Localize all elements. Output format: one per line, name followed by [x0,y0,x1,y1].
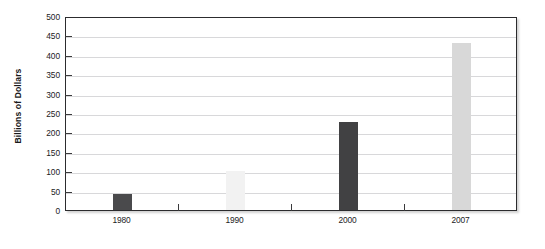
y-axis-title: Billions of Dollars [8,0,28,211]
y-tick-label: 50 [26,187,60,197]
y-tick-mark [65,133,72,134]
y-tick-label: 0 [26,206,60,216]
x-tick-label: 2007 [431,215,491,225]
x-tick-mark [404,204,405,211]
y-tick-label: 500 [26,12,60,22]
y-tick-label: 350 [26,70,60,80]
y-tick-label: 450 [26,31,60,41]
y-axis-tick-marks [65,17,75,211]
plot-area [65,17,517,211]
y-tick-label: 150 [26,148,60,158]
x-axis-tick-labels: 1980199020002007 [65,215,517,235]
bar-series [66,18,516,210]
y-tick-label: 100 [26,167,60,177]
y-tick-mark [65,56,72,57]
y-tick-mark [65,172,72,173]
bar [339,122,358,210]
y-tick-mark [65,95,72,96]
x-axis-tick-marks [65,204,517,212]
y-tick-mark [65,192,72,193]
x-tick-mark [178,204,179,211]
y-tick-label: 200 [26,128,60,138]
y-axis-tick-labels: 050100150200250300350400450500 [26,0,60,249]
x-tick-mark [291,204,292,211]
x-tick-label: 2000 [318,215,378,225]
y-tick-label: 250 [26,109,60,119]
y-tick-mark [65,36,72,37]
y-tick-mark [65,75,72,76]
bar [452,43,471,210]
x-tick-label: 1990 [205,215,265,225]
y-axis-title-label: Billions of Dollars [13,68,23,143]
bar-chart-figure: Billions of Dollars 05010015020025030035… [0,0,545,249]
y-tick-mark [65,153,72,154]
y-tick-label: 300 [26,90,60,100]
y-tick-label: 400 [26,51,60,61]
y-tick-mark [65,114,72,115]
x-tick-label: 1980 [92,215,152,225]
